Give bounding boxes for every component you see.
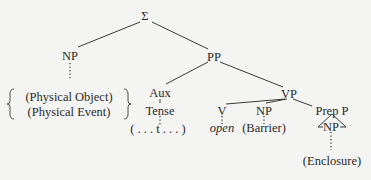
node-root-sigma: Σ (141, 9, 148, 23)
left-brace-icon (7, 89, 14, 119)
v-value-open: open (210, 121, 234, 135)
option-physical-object: (Physical Object) (25, 90, 112, 104)
edge-root-pp (152, 22, 208, 49)
right-brace-icon (124, 89, 131, 119)
tense-value: ( . . . t . . . ) (130, 122, 186, 136)
edge-pp-aux (166, 62, 208, 84)
node-v: V (217, 104, 226, 118)
np-object-value-barrier: (Barrier) (242, 121, 286, 135)
node-aux: Aux (149, 86, 171, 100)
node-np-prep: NP (323, 120, 339, 134)
syntax-tree-diagram: Σ NP (Physical Object) (Physical Event) … (0, 0, 371, 180)
node-tense: Tense (146, 104, 175, 118)
node-vp: VP (281, 87, 297, 101)
edge-root-np (78, 22, 140, 47)
node-np-object: NP (256, 104, 272, 118)
node-pp: PP (207, 50, 221, 64)
np-prep-value-enclosure: (Enclosure) (303, 154, 361, 168)
node-prep-p: Prep P (316, 104, 349, 118)
node-np-subject: NP (62, 49, 78, 63)
tree-edges (78, 22, 346, 127)
edge-pp-vp (220, 62, 283, 87)
option-physical-event: (Physical Event) (28, 105, 111, 119)
